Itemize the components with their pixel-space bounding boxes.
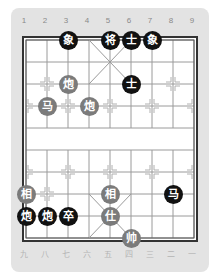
column-label-top: 8 bbox=[164, 16, 178, 25]
black-advisor-piece[interactable]: 士 bbox=[122, 75, 141, 94]
column-label-bottom: 八 bbox=[38, 248, 52, 259]
black-cannon-piece[interactable]: 炮 bbox=[17, 207, 36, 226]
column-label-bottom: 五 bbox=[101, 248, 115, 259]
red-advisor-piece[interactable]: 仕 bbox=[101, 207, 120, 226]
column-label-bottom: 七 bbox=[59, 248, 73, 259]
red-horse-piece[interactable]: 马 bbox=[38, 97, 57, 116]
black-soldier-piece[interactable]: 卒 bbox=[59, 207, 78, 226]
column-label-top: 2 bbox=[38, 16, 52, 25]
black-advisor-piece[interactable]: 士 bbox=[122, 31, 141, 50]
red-elephant-piece[interactable]: 相 bbox=[101, 185, 120, 204]
black-elephant-piece[interactable]: 象 bbox=[59, 31, 78, 50]
red-general-piece[interactable]: 帅 bbox=[122, 229, 141, 248]
red-cannon-piece[interactable]: 炮 bbox=[59, 75, 78, 94]
black-elephant-piece[interactable]: 象 bbox=[143, 31, 162, 50]
column-label-bottom: 六 bbox=[80, 248, 94, 259]
column-label-top: 5 bbox=[101, 16, 115, 25]
column-label-top: 9 bbox=[185, 16, 199, 25]
column-label-top: 4 bbox=[80, 16, 94, 25]
column-label-top: 7 bbox=[143, 16, 157, 25]
column-label-bottom: 三 bbox=[143, 248, 157, 259]
black-cannon-piece[interactable]: 炮 bbox=[38, 207, 57, 226]
column-label-top: 6 bbox=[122, 16, 136, 25]
red-elephant-piece[interactable]: 相 bbox=[17, 185, 36, 204]
red-cannon-piece[interactable]: 炮 bbox=[80, 97, 99, 116]
column-label-top: 3 bbox=[59, 16, 73, 25]
column-label-bottom: 二 bbox=[164, 248, 178, 259]
column-label-top: 1 bbox=[17, 16, 31, 25]
column-label-bottom: 一 bbox=[185, 248, 199, 259]
column-label-bottom: 九 bbox=[17, 248, 31, 259]
column-label-bottom: 四 bbox=[122, 248, 136, 259]
black-horse-piece[interactable]: 马 bbox=[164, 185, 183, 204]
black-general-piece[interactable]: 将 bbox=[101, 31, 120, 50]
